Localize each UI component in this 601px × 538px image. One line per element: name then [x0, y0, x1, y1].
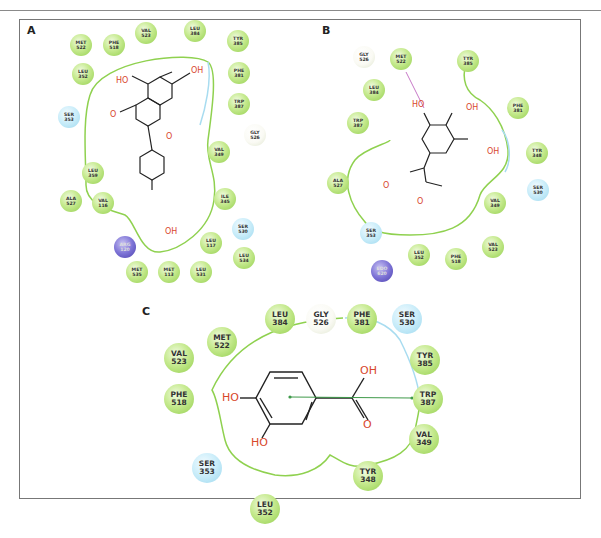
panel-b-ligand [410, 113, 468, 186]
panel-a-ligand [120, 72, 190, 190]
residue-bubble: LEU531 [190, 261, 212, 283]
residue-bubble: LEU352 [408, 244, 430, 266]
residue-bubble: VAL523 [164, 343, 194, 373]
residue-number: 527 [66, 201, 76, 206]
residue-number: 518 [109, 45, 119, 50]
residue-bubble: MET113 [158, 261, 180, 283]
residue-bubble: TRP387 [228, 93, 250, 115]
residue-bubble: MET535 [126, 261, 148, 283]
residue-number: 531 [196, 272, 206, 277]
residue-number: 523 [171, 358, 187, 366]
panel-label-c: C [142, 305, 150, 318]
residue-number: 523 [488, 247, 498, 252]
residue-bubble: GLY526 [306, 304, 336, 334]
residue-number: 526 [359, 57, 369, 62]
residue-bubble: EDO620 [371, 260, 393, 282]
residue-number: 530 [238, 229, 248, 234]
residue-number: 522 [76, 45, 86, 50]
residue-bubble: PHE381 [228, 62, 250, 84]
residue-bubble: TYR385 [410, 345, 440, 375]
residue-number: 353 [64, 117, 74, 122]
residue-bubble: LEU352 [250, 494, 280, 524]
panel-a-atom-oh-para: OH [165, 227, 177, 236]
residue-number: 352 [78, 74, 88, 79]
residue-number: 381 [354, 319, 370, 327]
residue-number: 387 [353, 123, 363, 128]
residue-number: 523 [141, 33, 151, 38]
residue-number: 381 [234, 73, 244, 78]
residue-bubble: VAL349 [409, 424, 439, 454]
residue-number: 385 [233, 41, 243, 46]
panel-c-pi-stack-line [288, 395, 413, 399]
residue-bubble: GLY526 [353, 46, 375, 68]
residue-bubble: TYR348 [353, 461, 383, 491]
residue-number: 620 [377, 271, 387, 276]
residue-bubble: TRP387 [347, 112, 369, 134]
residue-number: 387 [234, 104, 244, 109]
residue-bubble: SER530 [392, 304, 422, 334]
residue-bubble: TYR385 [457, 50, 479, 72]
panel-c-atom-o: O [363, 418, 372, 431]
residue-bubble: LEU384 [363, 79, 385, 101]
residue-bubble: LEU384 [184, 20, 206, 42]
panel-b-atom-oh-2: OH [487, 147, 499, 156]
residue-number: 526 [313, 319, 329, 327]
residue-bubble: VAL523 [482, 236, 504, 258]
residue-number: 527 [333, 183, 343, 188]
residue-bubble: VAL116 [92, 192, 114, 214]
residue-number: 522 [396, 59, 406, 64]
residue-number: 522 [214, 342, 230, 350]
residue-number: 359 [88, 173, 98, 178]
residue-number: 387 [420, 399, 436, 407]
panel-a-atom-o-keto: O [110, 110, 116, 119]
residue-number: 384 [369, 90, 379, 95]
residue-number: 385 [417, 360, 433, 368]
residue-bubble: ALA527 [60, 190, 82, 212]
residue-bubble: MET522 [70, 34, 92, 56]
residue-number: 530 [533, 190, 543, 195]
residue-number: 116 [98, 203, 108, 208]
residue-number: 384 [190, 31, 200, 36]
residue-number: 526 [250, 135, 260, 140]
residue-bubble: GLY526 [244, 124, 266, 146]
panel-a-atom-oh: OH [191, 66, 203, 75]
residue-bubble: ALA527 [327, 172, 349, 194]
residue-bubble: LEU359 [82, 162, 104, 184]
residue-number: 384 [272, 319, 288, 327]
residue-bubble: SER530 [527, 179, 549, 201]
residue-bubble: VAL349 [208, 141, 230, 163]
residue-number: 353 [366, 233, 376, 238]
panel-b-atom-oh-1: OH [466, 103, 478, 112]
residue-bubble: LEU352 [72, 63, 94, 85]
residue-number: 385 [463, 61, 473, 66]
residue-number: 381 [513, 108, 523, 113]
residue-number: 349 [214, 152, 224, 157]
residue-bubble: SER353 [58, 106, 80, 128]
residue-number: 530 [399, 319, 415, 327]
residue-bubble: SER353 [360, 222, 382, 244]
residue-number: 535 [132, 272, 142, 277]
residue-number: 518 [171, 399, 187, 407]
residue-bubble: ILE345 [214, 188, 236, 210]
residue-bubble: MET522 [207, 327, 237, 357]
residue-number: 352 [257, 509, 273, 517]
residue-number: 117 [206, 243, 216, 248]
residue-number: 353 [199, 468, 215, 476]
panel-label-b: B [322, 24, 330, 37]
panel-b-atom-o-ester: O [417, 197, 423, 206]
residue-number: 348 [532, 153, 542, 158]
residue-number: 120 [120, 247, 130, 252]
residue-number: 349 [416, 439, 432, 447]
residue-number: 534 [239, 258, 249, 263]
residue-bubble: SER353 [192, 453, 222, 483]
panel-c-ligand [240, 372, 368, 438]
panel-c-atom-ho-2: HO [251, 436, 268, 449]
residue-number: 352 [414, 255, 424, 260]
panel-c-atom-oh: OH [360, 364, 377, 377]
residue-bubble: PHE518 [164, 384, 194, 414]
residue-number: 345 [220, 199, 230, 204]
panel-a-pocket-outline [85, 57, 215, 252]
residue-bubble: PHE381 [347, 304, 377, 334]
residue-bubble: LEU117 [200, 232, 222, 254]
residue-number: 113 [164, 272, 174, 277]
